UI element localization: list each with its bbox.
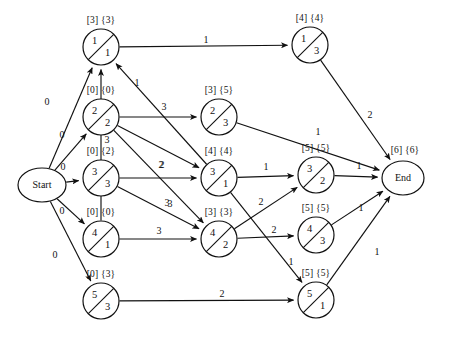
node-bracket-label: [5] {5} xyxy=(302,203,331,213)
node-n3a[interactable]: 33 xyxy=(83,160,119,196)
edge-n3b-to-n3c xyxy=(237,176,293,178)
nodes-layer: Start112233415323314213324351End xyxy=(18,27,424,319)
node-bracket-label: [0] {2} xyxy=(87,146,116,156)
edge-weight-label: 1 xyxy=(289,256,294,267)
node-upper-value: 1 xyxy=(92,35,97,46)
node-n4a[interactable]: 41 xyxy=(83,221,119,257)
node-bracket-label: [0] {0} xyxy=(87,85,116,95)
terminal-node-label: End xyxy=(395,172,411,183)
terminal-node-label: Start xyxy=(33,179,52,190)
edge-n3a-to-n4b xyxy=(117,186,199,228)
node-n5a[interactable]: 53 xyxy=(83,283,119,319)
node-n1c[interactable]: 13 xyxy=(292,27,328,63)
edge-weight-label: 1 xyxy=(264,161,269,172)
network-diagram-canvas: Start112233415323314213324351End 0000013… xyxy=(0,0,449,343)
node-bracket-label: [3] {5} xyxy=(205,85,234,95)
edge-weight-label: 2 xyxy=(368,109,373,120)
node-n3b[interactable]: 31 xyxy=(201,160,237,196)
edge-line xyxy=(321,60,390,159)
node-lower-value: 1 xyxy=(320,300,325,311)
edge-weight-label: 3 xyxy=(168,198,173,209)
node-end[interactable]: End xyxy=(382,161,424,195)
node-bracket-label: [4] {4} xyxy=(205,146,234,156)
edge-weight-label: 0 xyxy=(61,161,66,172)
node-lower-value: 1 xyxy=(105,47,110,58)
edge-weight-label: 2 xyxy=(272,224,277,235)
edge-weight-label: 2 xyxy=(259,196,264,207)
node-upper-value: 3 xyxy=(210,166,215,177)
edge-n2a-to-n4b xyxy=(114,130,203,223)
edge-line xyxy=(334,176,377,177)
node-upper-value: 2 xyxy=(92,105,97,116)
edge-weight-label: 1 xyxy=(359,202,364,213)
node-bracket-label: [5] {5} xyxy=(302,268,331,278)
edge-line xyxy=(116,64,207,165)
node-n4b[interactable]: 42 xyxy=(201,221,237,257)
node-lower-value: 3 xyxy=(105,301,110,312)
node-upper-value: 5 xyxy=(307,288,312,299)
node-n1a[interactable]: 11 xyxy=(83,29,119,65)
node-upper-value: 3 xyxy=(92,166,97,177)
node-bracket-label: [0] {0} xyxy=(87,207,116,217)
edge-n4b-to-n3c xyxy=(234,187,297,228)
node-lower-value: 1 xyxy=(105,239,110,250)
node-bracket-label: [4] {4} xyxy=(296,13,325,23)
edge-weight-label: 0 xyxy=(45,96,50,107)
node-n2b[interactable]: 23 xyxy=(201,99,237,135)
node-upper-value: 5 xyxy=(92,289,97,300)
node-upper-value: 2 xyxy=(210,105,215,116)
node-n5c[interactable]: 51 xyxy=(298,282,334,318)
edge-line xyxy=(66,181,78,182)
node-upper-value: 4 xyxy=(92,227,98,238)
edge-weight-label: 3 xyxy=(157,225,162,236)
edge-line xyxy=(114,130,203,223)
node-lower-value: 2 xyxy=(223,239,228,250)
node-n4c[interactable]: 43 xyxy=(298,217,334,253)
edge-weight-label: 1 xyxy=(316,126,321,137)
network-graph: Start112233415323314213324351End 0000013… xyxy=(0,0,449,343)
edge-weight-label: 0 xyxy=(53,249,58,260)
edge-n3c-to-end xyxy=(334,176,377,177)
node-lower-value: 2 xyxy=(320,175,325,186)
edge-n3b-to-n1a xyxy=(116,64,207,165)
edge-weight-label: 2 xyxy=(220,288,225,299)
edge-n1c-to-end xyxy=(321,60,390,159)
node-lower-value: 3 xyxy=(105,178,110,189)
edge-n1a-to-n1c xyxy=(119,45,287,47)
edge-n5a-to-n5c xyxy=(119,300,293,301)
edge-start-to-n3a xyxy=(66,181,78,182)
node-n3c[interactable]: 32 xyxy=(298,157,334,193)
node-upper-value: 1 xyxy=(301,33,306,44)
edge-weight-label: 0 xyxy=(60,205,65,216)
node-upper-value: 3 xyxy=(307,163,312,174)
node-lower-value: 3 xyxy=(320,235,325,246)
edge-weight-label: 1 xyxy=(135,77,140,88)
node-n2a[interactable]: 22 xyxy=(83,99,119,135)
edge-line xyxy=(234,187,297,228)
node-lower-value: 3 xyxy=(223,117,228,128)
node-bracket-label: [3] {3} xyxy=(87,15,116,25)
node-lower-value: 1 xyxy=(223,178,228,189)
edge-line xyxy=(119,45,287,47)
edge-n4c-to-end xyxy=(331,191,382,225)
edge-line xyxy=(331,191,382,225)
node-upper-value: 4 xyxy=(307,223,313,234)
node-bracket-label: [5] {5} xyxy=(302,143,331,153)
edge-weight-label: 3 xyxy=(162,101,167,112)
edge-line xyxy=(117,186,199,228)
node-upper-value: 4 xyxy=(210,227,216,238)
end-node-bracket-label: [6] {6} xyxy=(391,145,420,155)
edge-weight-label: 2 xyxy=(159,159,164,170)
edge-line xyxy=(119,300,293,301)
edge-line xyxy=(237,176,293,178)
node-start[interactable]: Start xyxy=(18,168,66,202)
node-lower-value: 3 xyxy=(314,45,319,56)
node-lower-value: 2 xyxy=(105,117,110,128)
edge-weight-label: 3 xyxy=(105,134,110,145)
edge-weight-label: 1 xyxy=(357,160,362,171)
node-bracket-label: [0] {3} xyxy=(87,269,116,279)
edge-weight-label: 0 xyxy=(60,129,65,140)
edge-weight-label: 1 xyxy=(375,246,380,257)
node-bracket-label: [3] {3} xyxy=(205,207,234,217)
edge-weight-label: 1 xyxy=(204,34,209,45)
